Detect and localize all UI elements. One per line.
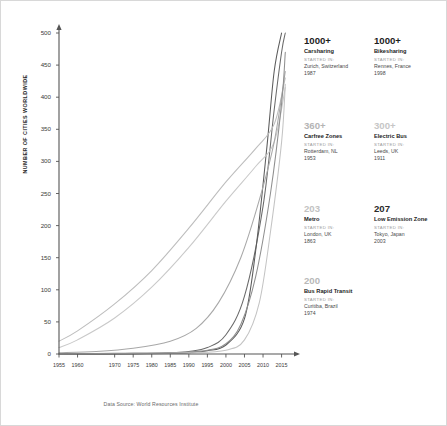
stat-place: Rotterdam, NL <box>304 148 370 155</box>
stat-year: 1998 <box>374 70 440 77</box>
y-axis-tick-label: 200 <box>21 222 51 229</box>
series-line <box>59 78 285 341</box>
stat-card: 207Low Emission ZoneSTARTED IN:Tokyo, Ja… <box>374 203 440 245</box>
stat-card: 300+Electric BusSTARTED IN:Leeds, UK1911 <box>374 120 440 162</box>
series-line <box>59 33 285 354</box>
series-line <box>59 84 285 354</box>
chart-figure: NUMBER OF CITIES WORLDWIDE 0501001502002… <box>0 0 447 426</box>
stat-card: 360+Carfree ZonesSTARTED IN:Rotterdam, N… <box>304 120 370 162</box>
y-axis-tick-label: 0 <box>21 350 51 357</box>
chart-plot-area: NUMBER OF CITIES WORLDWIDE 0501001502002… <box>1 1 301 391</box>
chart-axes <box>56 24 300 358</box>
stat-year: 1974 <box>304 310 370 317</box>
y-axis-tick-label: 350 <box>21 125 51 132</box>
stat-name: Bikesharing <box>374 48 440 55</box>
stat-card: 1000+BikesharingSTARTED IN:Rennes, Franc… <box>374 35 440 77</box>
y-axis-tick-label: 150 <box>21 254 51 261</box>
stat-year: 1987 <box>304 70 370 77</box>
x-axis-tick-label: 2015 <box>269 362 295 368</box>
stat-name: Carsharing <box>304 48 370 55</box>
stat-place: Leeds, UK <box>374 148 440 155</box>
stat-place: Tokyo, Japan <box>374 231 440 238</box>
y-axis-tick-label: 450 <box>21 61 51 68</box>
stat-year: 1953 <box>304 155 370 162</box>
stat-card: 1000+CarsharingSTARTED IN:Zurich, Switze… <box>304 35 370 77</box>
stat-value: 203 <box>304 203 370 214</box>
stats-legend-panel: 1000+CarsharingSTARTED IN:Zurich, Switze… <box>304 35 446 355</box>
stat-card: 200Bus Rapid TransitSTARTED IN:Curitiba,… <box>304 275 370 317</box>
stat-value: 1000+ <box>304 35 370 46</box>
stat-year: 1911 <box>374 155 440 162</box>
stat-value: 360+ <box>304 120 370 131</box>
stat-place: Zurich, Switzerland <box>304 63 370 70</box>
stat-value: 207 <box>374 203 440 214</box>
stat-year: 2003 <box>374 238 440 245</box>
stat-card: 203MetroSTARTED IN:London, UK1863 <box>304 203 370 245</box>
y-axis-tick-label: 300 <box>21 157 51 164</box>
y-axis-arrow <box>56 24 61 30</box>
series-line <box>59 52 285 354</box>
stat-value: 1000+ <box>374 35 440 46</box>
stat-name: Carfree Zones <box>304 133 370 140</box>
series-lines <box>59 33 285 354</box>
stat-name: Electric Bus <box>374 133 440 140</box>
series-line <box>59 72 285 353</box>
y-axis-tick-label: 500 <box>21 29 51 36</box>
stat-name: Low Emission Zone <box>374 216 440 223</box>
stat-name: Metro <box>304 216 370 223</box>
stat-place: Rennes, France <box>374 63 440 70</box>
data-source-note: Data Source: World Resources Institute <box>1 401 301 407</box>
x-axis-arrow <box>294 351 300 356</box>
y-axis-tick-label: 250 <box>21 190 51 197</box>
stat-name: Bus Rapid Transit <box>304 288 370 295</box>
stat-place: London, UK <box>304 231 370 238</box>
x-axis-tick-label: 1960 <box>65 362 91 368</box>
y-axis-tick-label: 400 <box>21 93 51 100</box>
stat-year: 1863 <box>304 238 370 245</box>
y-axis-tick-label: 50 <box>21 318 51 325</box>
y-axis-tick-label: 100 <box>21 286 51 293</box>
series-line <box>59 88 285 348</box>
stat-value: 300+ <box>374 120 440 131</box>
stat-value: 200 <box>304 275 370 286</box>
stat-place: Curitiba, Brazil <box>304 303 370 310</box>
